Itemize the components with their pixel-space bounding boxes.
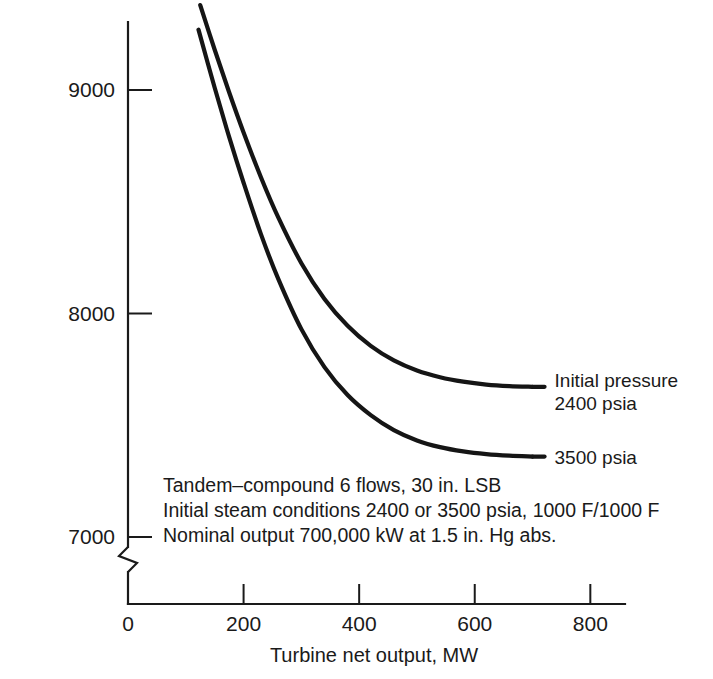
series-label-0-line-0: Initial pressure — [555, 370, 679, 391]
x-tick-label-600: 600 — [457, 612, 492, 635]
y-tick-label-9000: 9000 — [68, 78, 115, 101]
y-tick-label-8000: 8000 — [68, 302, 115, 325]
chart-figure: 700080009000 0200400600800 Initial press… — [0, 0, 713, 679]
series-label-1-line-0: 3500 psia — [555, 447, 638, 468]
chart-background — [0, 0, 713, 679]
x-tick-label-0: 0 — [122, 612, 134, 635]
x-tick-label-800: 800 — [573, 612, 608, 635]
turbine-heat-rate-chart: 700080009000 0200400600800 Initial press… — [0, 0, 713, 679]
x-axis-title: Turbine net output, MW — [270, 644, 478, 666]
annotation-line-2: Initial steam conditions 2400 or 3500 ps… — [163, 499, 660, 521]
y-tick-label-7000: 7000 — [68, 525, 115, 548]
annotation-line-1: Tandem–compound 6 flows, 30 in. LSB — [163, 474, 501, 496]
series-label-0-line-1: 2400 psia — [555, 393, 638, 414]
x-tick-label-200: 200 — [226, 612, 261, 635]
x-tick-label-400: 400 — [342, 612, 377, 635]
annotation-line-3: Nominal output 700,000 kW at 1.5 in. Hg … — [163, 524, 556, 546]
